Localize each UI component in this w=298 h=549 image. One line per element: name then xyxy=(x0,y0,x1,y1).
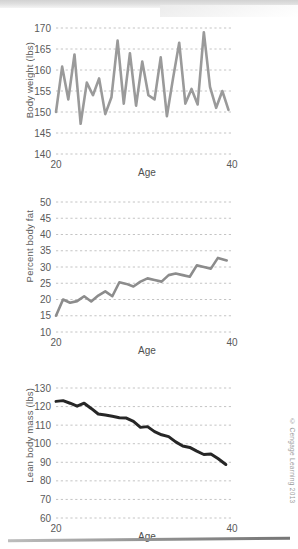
y-tick-label: 170 xyxy=(34,23,51,34)
data-series-line xyxy=(56,401,226,465)
data-series-line xyxy=(56,32,228,124)
x-axis-label: Age xyxy=(138,167,156,178)
x-tick-label: 40 xyxy=(226,523,238,534)
body-weight-y-axis-label: Body weight (lbs) xyxy=(24,42,35,118)
percent-body-fat-chart: 1015202530354045502040Age Percent body f… xyxy=(0,186,298,358)
y-tick-label: 50 xyxy=(40,197,52,208)
percent-body-fat-svg: 1015202530354045502040Age xyxy=(0,186,298,358)
y-tick-label: 120 xyxy=(34,401,51,412)
y-tick-label: 155 xyxy=(34,86,51,97)
x-tick-label: 40 xyxy=(226,337,238,348)
y-tick-label: 150 xyxy=(34,107,51,118)
percent-body-fat-y-axis-label: Percent body fat xyxy=(24,210,35,282)
y-tick-label: 15 xyxy=(40,310,52,321)
y-tick-label: 40 xyxy=(40,229,52,240)
y-tick-label: 20 xyxy=(40,294,52,305)
y-tick-label: 145 xyxy=(34,128,51,139)
y-tick-label: 80 xyxy=(40,475,52,486)
y-tick-label: 30 xyxy=(40,262,52,273)
copyright-notice: © Cengage Learning 2013 xyxy=(289,418,296,503)
body-weight-svg: 1401451501551601651702040Age xyxy=(0,8,298,180)
body-weight-chart: 1401451501551601651702040Age Body weight… xyxy=(0,8,298,180)
y-tick-label: 160 xyxy=(34,65,51,76)
y-tick-label: 45 xyxy=(40,213,52,224)
y-tick-label: 90 xyxy=(40,457,52,468)
lean-body-mass-plot-area: 607080901001101201302040Age xyxy=(0,366,298,544)
lean-body-mass-y-axis-label: Lean body mass (lbs) xyxy=(24,388,35,483)
y-tick-label: 100 xyxy=(34,438,51,449)
x-tick-label: 20 xyxy=(50,337,62,348)
y-tick-label: 165 xyxy=(34,44,51,55)
y-tick-label: 70 xyxy=(40,494,52,505)
x-tick-label: 20 xyxy=(50,523,62,534)
y-tick-label: 10 xyxy=(40,327,52,338)
y-tick-label: 60 xyxy=(40,513,52,524)
y-tick-label: 35 xyxy=(40,245,52,256)
y-tick-label: 130 xyxy=(34,383,51,394)
y-tick-label: 110 xyxy=(35,420,51,431)
x-axis-label: Age xyxy=(138,345,156,356)
percent-body-fat-plot-area: 1015202530354045502040Age xyxy=(0,186,298,358)
body-weight-plot-area: 1401451501551601651702040Age xyxy=(0,8,298,180)
lean-body-mass-chart: 607080901001101201302040Age Lean body ma… xyxy=(0,366,298,544)
lean-body-mass-svg: 607080901001101201302040Age xyxy=(0,366,298,544)
x-tick-label: 40 xyxy=(226,159,238,170)
x-tick-label: 20 xyxy=(50,159,62,170)
y-tick-label: 140 xyxy=(34,149,51,160)
y-tick-label: 25 xyxy=(40,278,52,289)
